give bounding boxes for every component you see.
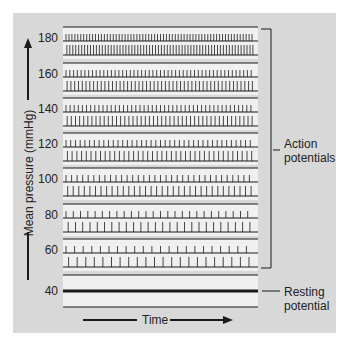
tick-label-60: 60 [34, 243, 58, 257]
time-arrowhead-icon [223, 316, 233, 324]
tick-label-180: 180 [34, 31, 58, 45]
tick-label-120: 120 [34, 137, 58, 151]
action-potentials-bracket [261, 29, 271, 268]
resting-potential-label-line1: Resting [284, 285, 329, 299]
action-potentials-label-line2: potentials [284, 151, 335, 165]
tick-label-80: 80 [34, 208, 58, 222]
tick-label-140: 140 [34, 102, 58, 116]
tick-label-160: 160 [34, 67, 58, 81]
action-potentials-label: Action potentials [284, 137, 335, 165]
tick-label-100: 100 [34, 172, 58, 186]
strip-60 [63, 239, 258, 271]
action-potentials-label-line1: Action [284, 137, 335, 151]
y-axis-arrowhead-icon [24, 38, 32, 48]
y-axis-label-holder: Mean pressure (mmHg) [22, 166, 36, 180]
strip-80 [63, 204, 258, 236]
resting-potential-label: Resting potential [284, 285, 329, 313]
strip-120 [63, 133, 258, 165]
time-axis-label: Time [142, 313, 168, 327]
strip-160 [63, 63, 258, 95]
strip-180 [63, 27, 258, 59]
tick-label-40: 40 [34, 284, 58, 298]
y-axis-label: Mean pressure (mmHg) [22, 106, 36, 240]
resting-potential-label-line2: potential [284, 299, 329, 313]
